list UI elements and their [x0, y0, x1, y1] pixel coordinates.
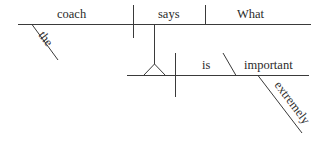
word-clause-complement: important: [244, 59, 293, 72]
complement-backslash: [223, 53, 236, 76]
word-subject: coach: [57, 8, 86, 21]
word-clause-predicate: is: [202, 59, 210, 72]
word-direct-object: What: [237, 8, 264, 21]
pedestal-legs: [144, 64, 165, 75]
word-verb: says: [158, 8, 180, 21]
sentence-diagram: coach the says What is important extreme…: [0, 0, 327, 147]
diagram-lines: [0, 0, 327, 147]
